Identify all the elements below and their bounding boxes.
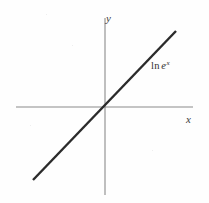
x-axis-label: x — [186, 114, 191, 125]
plot-canvas — [0, 0, 209, 203]
paper-speck — [46, 14, 47, 15]
paper-speck — [72, 45, 73, 46]
function-graph-figure: y x lnex — [0, 0, 209, 203]
curve-label: lnex — [151, 61, 170, 72]
curve-label-exponent: x — [166, 59, 169, 67]
y-axis-label: y — [106, 13, 111, 24]
paper-speck — [30, 125, 31, 126]
paper-speck — [152, 150, 153, 151]
curve-label-function-name: ln — [151, 60, 160, 71]
